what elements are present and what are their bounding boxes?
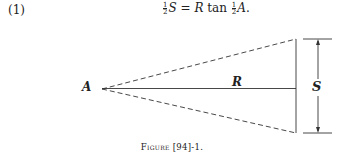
figure-caption: Figure [94]-1. — [0, 142, 344, 152]
triangle-diagram — [0, 0, 344, 159]
radius-label: R — [232, 75, 242, 89]
apex-label: A — [82, 80, 91, 94]
span-label: S — [312, 79, 321, 94]
